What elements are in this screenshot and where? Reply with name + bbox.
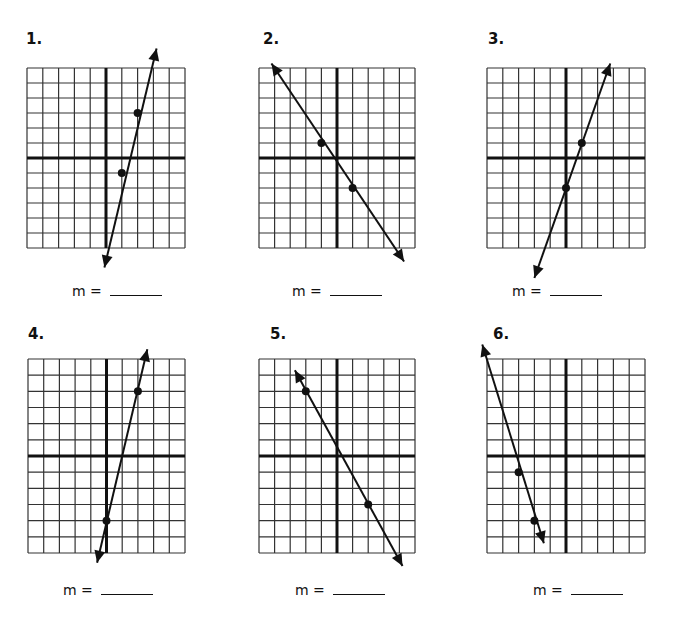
plotted-point — [515, 468, 523, 476]
slope-answer-3[interactable]: m = — [512, 283, 602, 299]
slope-answer-2[interactable]: m = — [292, 283, 382, 299]
slope-answer-6[interactable]: m = — [533, 582, 623, 598]
coordinate-grid-3 — [487, 68, 645, 248]
slope-answer-4[interactable]: m = — [63, 582, 153, 598]
problem-number-3: 3. — [488, 30, 504, 48]
plotted-point — [134, 109, 142, 117]
coordinate-grid-1 — [27, 68, 185, 248]
coordinate-grid-2 — [259, 68, 415, 248]
plotted-point — [562, 184, 570, 192]
answer-blank[interactable] — [571, 593, 623, 595]
plotted-point — [578, 139, 586, 147]
arrowhead-icon — [148, 49, 159, 62]
plotted-point — [118, 169, 126, 177]
plotted-point — [302, 387, 310, 395]
answer-blank[interactable] — [101, 593, 153, 595]
answer-label: m = — [63, 582, 93, 598]
answer-label: m = — [292, 283, 322, 299]
arrowhead-icon — [601, 64, 611, 77]
arrowhead-icon — [139, 349, 150, 362]
answer-label: m = — [512, 283, 542, 299]
answer-label: m = — [533, 582, 563, 598]
slope-answer-1[interactable]: m = — [72, 283, 162, 299]
problem-number-4: 4. — [28, 325, 44, 343]
answer-blank[interactable] — [110, 294, 162, 296]
coordinate-grid-5 — [259, 359, 415, 553]
answer-blank[interactable] — [550, 294, 602, 296]
arrowhead-icon — [94, 550, 105, 563]
problem-number-2: 2. — [263, 30, 279, 48]
answer-blank[interactable] — [330, 294, 382, 296]
arrowhead-icon — [102, 255, 113, 268]
problem-number-6: 6. — [493, 325, 509, 343]
problem-number-1: 1. — [26, 30, 42, 48]
plotted-point — [364, 501, 372, 509]
arrowhead-icon — [393, 248, 404, 261]
plotted-point — [530, 517, 538, 525]
graphed-line — [534, 64, 610, 279]
answer-label: m = — [295, 582, 325, 598]
plotted-point — [103, 517, 111, 525]
plotted-point — [349, 184, 357, 192]
answer-label: m = — [72, 283, 102, 299]
coordinate-grid-4 — [28, 359, 185, 553]
arrowhead-icon — [271, 64, 282, 77]
coordinate-grid-6 — [487, 359, 645, 553]
answer-blank[interactable] — [333, 593, 385, 595]
plotted-point — [317, 139, 325, 147]
arrowhead-icon — [533, 265, 543, 278]
arrowhead-icon — [481, 344, 492, 357]
plotted-point — [134, 387, 142, 395]
problem-number-5: 5. — [270, 325, 286, 343]
slope-answer-5[interactable]: m = — [295, 582, 385, 598]
